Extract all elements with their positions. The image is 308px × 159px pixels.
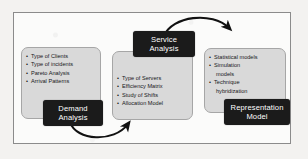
label-line-2: Analysis	[58, 113, 87, 122]
panel-service-analysis: Type of Servers Efficiency Matrix Study …	[112, 51, 193, 120]
bullet-list-representation: Statistical models Simulation models Tec…	[209, 53, 282, 95]
list-item: hybridization	[209, 87, 282, 95]
list-item: Arrival Patterns	[26, 77, 97, 85]
label-demand-analysis: Demand Analysis	[43, 100, 103, 126]
list-item: models	[209, 70, 282, 78]
label-line-1: Service	[151, 35, 177, 44]
list-item: Type of Servers	[117, 74, 189, 82]
bullet-list-service: Type of Servers Efficiency Matrix Study …	[117, 74, 189, 108]
list-item: Type of incidents	[26, 60, 97, 68]
bullet-list-demand: Type of Clients Type of incidents Pareto…	[26, 52, 97, 86]
list-item: Pareto Analysis	[26, 69, 97, 77]
list-item: Study of Shifts	[117, 91, 189, 99]
label-line-1: Demand	[58, 104, 87, 113]
label-line-2: Analysis	[149, 44, 178, 53]
list-item: Type of Clients	[26, 52, 97, 60]
diagram-canvas: Type of Clients Type of incidents Pareto…	[0, 0, 308, 159]
label-service-analysis: Service Analysis	[133, 31, 195, 57]
label-line-2: Model	[246, 112, 267, 121]
list-item: Technique	[209, 78, 282, 86]
label-line-1: Representation	[231, 103, 284, 112]
list-item: Allocation Model	[117, 99, 189, 107]
list-item: Efficiency Matrix	[117, 82, 189, 90]
list-item: Simulation	[209, 61, 282, 69]
list-item: Statistical models	[209, 53, 282, 61]
label-representation-model: Representation Model	[224, 99, 290, 125]
